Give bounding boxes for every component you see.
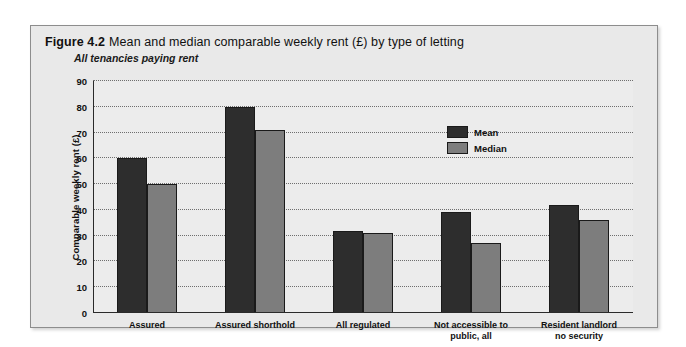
figure-title: Figure 4.2Mean and median comparable wee… (45, 35, 647, 49)
bar-group: Resident landlordno security (525, 81, 633, 313)
y-axis-tick-label: 60 (76, 153, 87, 164)
bar-pair (93, 81, 201, 313)
bar-group: All regulated (309, 81, 417, 313)
figure-title-block: Figure 4.2Mean and median comparable wee… (45, 35, 647, 64)
bar-median (579, 220, 609, 313)
y-axis-line (93, 81, 94, 313)
bar-median (471, 243, 501, 313)
y-axis-tick-label: 90 (76, 76, 87, 87)
x-axis-category-label: Resident landlordno security (495, 320, 663, 342)
x-axis-category-label-line: no security (495, 331, 663, 342)
bar-group: Not accessible topublic, all (417, 81, 525, 313)
y-axis-tick-label: 10 (76, 282, 87, 293)
y-axis-tick-label: 70 (76, 127, 87, 138)
bar-pair (525, 81, 633, 313)
bar-pair (201, 81, 309, 313)
y-axis-tick-label: 20 (76, 256, 87, 267)
figure-subtitle: All tenancies paying rent (74, 52, 647, 64)
bar-median (147, 184, 177, 313)
bar-mean (441, 212, 471, 313)
bar-pair (309, 81, 417, 313)
figure-number: Figure 4.2 (45, 35, 105, 49)
legend-swatch-median (447, 142, 468, 154)
bar-mean (225, 107, 255, 313)
bar-mean (549, 205, 579, 313)
bar-pair (417, 81, 525, 313)
legend-swatch-mean (447, 126, 468, 138)
bar-mean (117, 158, 147, 313)
y-axis-tick-label: 40 (76, 204, 87, 215)
y-axis-tick-label: 0 (82, 308, 87, 319)
y-axis-tick-label: 80 (76, 101, 87, 112)
bar-median (255, 130, 285, 313)
bar-mean (333, 231, 363, 313)
x-axis-line (93, 312, 633, 313)
bar-group: Assured (93, 81, 201, 313)
y-axis-title: Comparable weekly rent (£) (67, 81, 83, 313)
legend-label: Mean (474, 127, 498, 138)
figure-title-text: Mean and median comparable weekly rent (… (109, 35, 464, 49)
plot-area: 0102030405060708090 AssuredAssured short… (93, 81, 633, 313)
y-axis-tick-label: 50 (76, 179, 87, 190)
chart-legend: MeanMedian (447, 125, 507, 157)
legend-label: Median (474, 143, 507, 154)
y-axis-tick-label: 30 (76, 230, 87, 241)
bar-median (363, 233, 393, 313)
x-axis-category-label-line: Resident landlord (495, 320, 663, 331)
legend-item-median: Median (447, 141, 507, 155)
figure-container: Figure 4.2Mean and median comparable wee… (30, 25, 658, 328)
legend-item-mean: Mean (447, 125, 507, 139)
bar-group: Assured shorthold (201, 81, 309, 313)
